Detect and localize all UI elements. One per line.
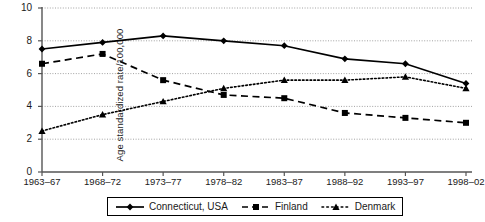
x-tick-label: 1983–87 [266, 176, 303, 187]
legend-label: Denmark [355, 201, 396, 212]
data-point [220, 37, 227, 44]
legend-item[interactable]: Connecticut, USA [115, 201, 228, 213]
data-point [402, 115, 408, 121]
x-tick-label: 1973–77 [145, 176, 182, 187]
series-denmark [38, 73, 469, 134]
data-point [160, 77, 166, 83]
data-point [281, 42, 288, 49]
data-point [462, 85, 469, 91]
data-point [281, 95, 287, 101]
data-point [463, 120, 469, 126]
data-point [99, 39, 106, 46]
x-tick-label: 1993–97 [387, 176, 424, 187]
legend-triangle-icon [321, 201, 351, 213]
legend-item[interactable]: Denmark [321, 201, 396, 213]
chart-legend: Connecticut, USAFinlandDenmark [107, 197, 403, 216]
legend-diamond-icon [115, 201, 145, 213]
x-tick-label: 1963–67 [24, 176, 61, 187]
x-tick-label: 1988–92 [326, 176, 363, 187]
legend-item[interactable]: Finland [241, 201, 308, 213]
data-point [342, 110, 348, 116]
data-point [160, 32, 167, 39]
data-point [221, 92, 227, 98]
data-point [402, 60, 409, 67]
data-point [341, 55, 348, 62]
x-tick-label: 1978–82 [205, 176, 242, 187]
data-point [39, 61, 45, 67]
x-tick-label: 1998–02 [448, 176, 485, 187]
data-point [100, 51, 106, 57]
legend-label: Finland [275, 201, 308, 212]
data-point [39, 46, 46, 53]
x-tick-label: 1968–72 [84, 176, 121, 187]
data-point [38, 127, 45, 133]
legend-label: Connecticut, USA [149, 201, 228, 212]
series-line [42, 77, 466, 131]
legend-square-icon [241, 201, 271, 213]
